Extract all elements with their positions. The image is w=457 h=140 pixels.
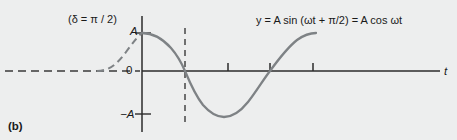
cosine-curve [142,33,316,117]
figure-panel: (δ = π / 2) y = A sin (ωt + π/2) = A cos… [0,0,457,140]
y-axis-label-negative-amplitude: −A [120,109,134,121]
x-axis-label-time: t [444,66,447,78]
dashed-curve-extension [97,33,142,71]
panel-label: (b) [8,121,23,133]
y-axis-label-positive-amplitude: A [130,26,138,38]
y-axis-label-zero: 0 [126,65,132,77]
equation-label: y = A sin (ωt + π/2) = A cos ωt [256,15,402,26]
phase-annotation-label: (δ = π / 2) [68,14,117,25]
